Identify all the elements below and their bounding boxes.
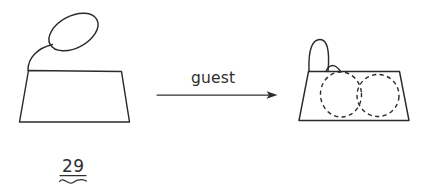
figure-number: 29 (62, 156, 85, 176)
right-trapezoid (299, 72, 409, 121)
right-dashed-oval-right (356, 73, 400, 117)
caption-squiggle (60, 180, 87, 184)
left-trapezoid (20, 71, 130, 123)
right-tall-arch (309, 40, 329, 72)
arrow-label: guest (191, 69, 235, 87)
transform-arrow-group: guest (157, 69, 278, 99)
left-shape-group (20, 5, 130, 122)
left-stem-curve (28, 45, 53, 71)
right-dashed-oval-left (319, 71, 363, 119)
left-ellipse-loop (43, 5, 105, 58)
figure-diagram: guest 29 (0, 0, 439, 193)
figure-canvas: guest 29 (0, 0, 439, 193)
right-shape-group (299, 40, 409, 121)
figure-caption-group: 29 (60, 156, 87, 183)
